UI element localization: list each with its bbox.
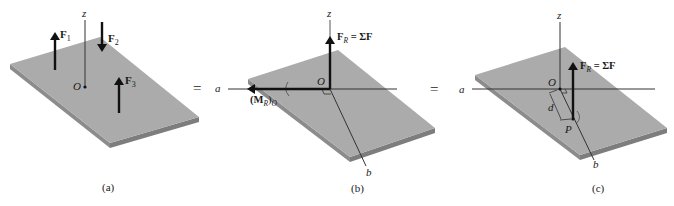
a-axis-label: a	[215, 82, 221, 94]
panel-c: z a b O P d FR = ΣF (c)	[459, 9, 667, 195]
a-axis-label: a	[459, 83, 465, 95]
caption-a: (a)	[102, 181, 115, 194]
force-system-reduction-diagram: z O F1 F2 F3 (a) = z a b	[0, 0, 674, 206]
caption-c: (c)	[592, 182, 605, 195]
z-axis-label: z	[81, 7, 87, 19]
resultant-force-label: FR = ΣF	[337, 31, 373, 45]
b-axis-label: b	[366, 166, 372, 178]
z-axis-label: z	[556, 9, 562, 21]
distance-d-label: d	[548, 101, 554, 113]
force-f2-label: F2	[108, 32, 119, 47]
point-p-label: P	[564, 123, 572, 135]
origin-point	[83, 85, 86, 88]
b-axis-label: b	[593, 158, 599, 170]
origin-label: O	[317, 75, 325, 87]
equals-sign-2: =	[430, 81, 438, 97]
force-f1-label: F1	[60, 28, 71, 43]
origin-label: O	[73, 80, 81, 92]
origin-label: O	[548, 76, 556, 88]
z-axis-label: z	[326, 7, 332, 19]
panel-b: z a b O FR = ΣF (MR)O (b)	[215, 7, 435, 195]
caption-b: (b)	[351, 182, 364, 195]
equals-sign-1: =	[193, 80, 201, 96]
panel-a: z O F1 F2 F3 (a)	[10, 7, 199, 194]
origin-point	[558, 87, 561, 90]
